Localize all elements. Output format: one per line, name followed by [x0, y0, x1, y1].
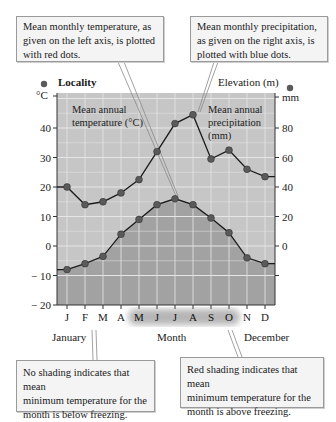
svg-text:80: 80 — [282, 122, 294, 134]
svg-text:− 20: − 20 — [31, 299, 51, 311]
svg-text:40: 40 — [282, 181, 294, 193]
callout-text: Red shading indicates that mean — [187, 363, 317, 391]
callout-red-shading: Red shading indicates that mean minimum … — [180, 357, 324, 408]
svg-text:S: S — [208, 311, 214, 323]
callout-no-shading: No shading indicates that mean minimum t… — [16, 360, 155, 412]
mean-annual-temperature-label: Mean annual temperature (°C) — [72, 103, 143, 129]
svg-text:0: 0 — [46, 240, 52, 252]
left-unit-label: °C — [36, 89, 48, 101]
svg-text:60: 60 — [282, 152, 294, 164]
january-label: January — [52, 331, 86, 343]
callout-text: minimum temperature for the — [23, 394, 148, 408]
svg-text:0: 0 — [282, 240, 288, 252]
callout-text: Mean monthly temperature, as — [23, 20, 157, 34]
label-text: precipitation — [208, 116, 263, 129]
temperature-dot-icon — [41, 81, 47, 87]
svg-text:− 10: − 10 — [31, 270, 51, 282]
callout-text: as given on the right axis, is — [197, 34, 321, 48]
callout-text: given on the left axis, is plotted — [23, 34, 157, 48]
svg-text:N: N — [243, 311, 251, 323]
svg-text:30: 30 — [40, 152, 52, 164]
svg-text:M: M — [98, 311, 108, 323]
right-unit-label: mm — [282, 91, 299, 103]
svg-text:O: O — [225, 311, 233, 323]
label-text: Mean annual — [72, 103, 143, 116]
label-text: Mean annual — [208, 103, 263, 116]
svg-text:20: 20 — [282, 211, 294, 223]
svg-text:40: 40 — [40, 122, 52, 134]
svg-text:M: M — [134, 311, 144, 323]
callout-text: plotted with blue dots. — [197, 48, 321, 62]
svg-text:J: J — [65, 311, 70, 323]
svg-text:F: F — [82, 311, 88, 323]
callout-temperature: Mean monthly temperature, as given on th… — [16, 16, 164, 62]
svg-text:10: 10 — [40, 211, 52, 223]
elevation-label: Elevation (m) — [218, 76, 279, 88]
svg-text:A: A — [117, 311, 125, 323]
mean-annual-precipitation-label: Mean annual precipitation (mm) — [208, 103, 263, 142]
callout-text: month is above freezing. — [187, 405, 317, 419]
december-label: December — [244, 331, 289, 343]
callout-precipitation: Mean monthly precipitation, as given on … — [190, 16, 328, 62]
callout-text: Mean monthly precipitation, — [197, 20, 321, 34]
svg-text:A: A — [189, 311, 197, 323]
callout-text: month is below freezing. — [23, 408, 148, 422]
highlight-months-band — [128, 309, 240, 325]
svg-text:J: J — [155, 311, 160, 323]
callout-text: minimum temperature for the — [187, 391, 317, 405]
label-text: temperature (°C) — [72, 116, 143, 129]
svg-text:J: J — [173, 311, 178, 323]
locality-label: Locality — [58, 76, 97, 88]
callout-text: No shading indicates that mean — [23, 366, 148, 394]
svg-text:D: D — [261, 311, 269, 323]
svg-text:20: 20 — [40, 181, 52, 193]
label-text: (mm) — [208, 129, 263, 142]
callout-text: with red dots. — [23, 48, 157, 62]
x-axis-title: Month — [157, 331, 186, 343]
